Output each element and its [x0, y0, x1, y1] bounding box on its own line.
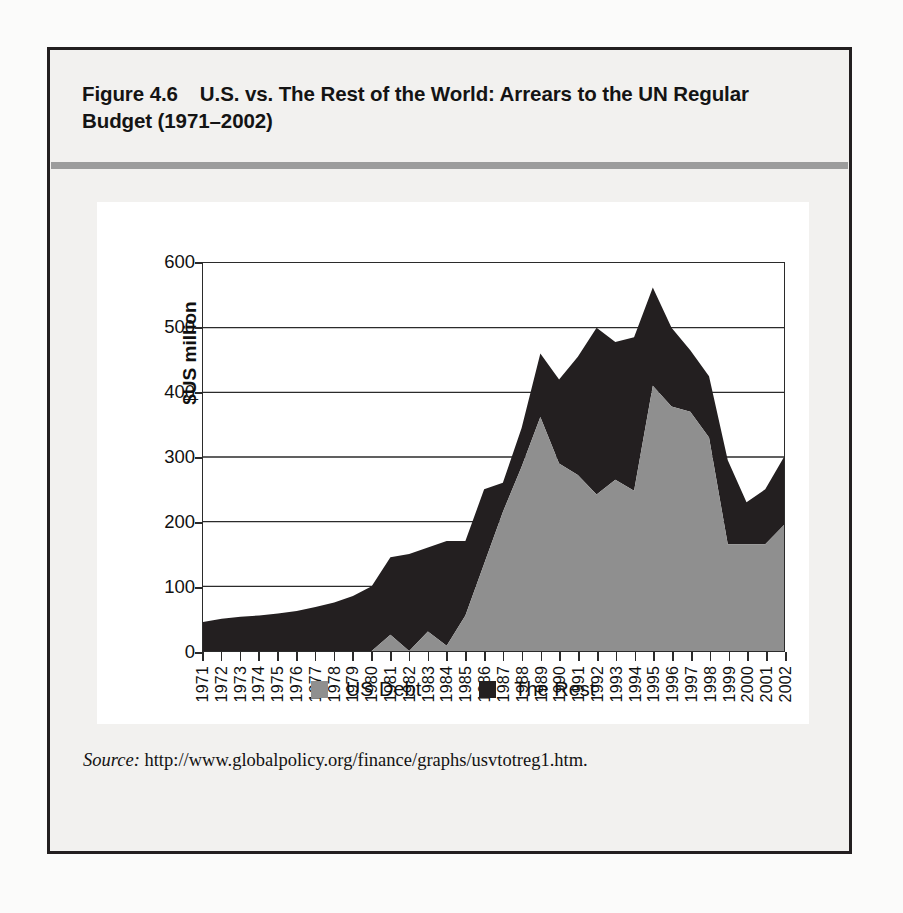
- chart-card: $US million 0100200300400500600 19711972…: [97, 202, 809, 724]
- x-tick-mark: [484, 652, 486, 661]
- x-tick-mark: [202, 652, 204, 661]
- x-tick-mark: [597, 652, 599, 661]
- x-tick-mark: [390, 652, 392, 661]
- x-axis-ticks: 1971197219731974197519761977197819791980…: [202, 652, 785, 752]
- plot-area: [202, 262, 785, 652]
- x-tick-mark: [334, 652, 336, 661]
- legend-item: US Debt: [311, 678, 422, 701]
- y-tick-mark: [195, 327, 202, 329]
- x-tick-mark: [371, 652, 373, 661]
- x-tick-mark: [352, 652, 354, 661]
- source-note: Source: http://www.globalpolicy.org/fina…: [83, 750, 588, 771]
- figure-title-text: U.S. vs. The Rest of the World: Arrears …: [82, 82, 749, 132]
- y-tick-label: 600: [149, 251, 195, 273]
- y-axis-ticks: 0100200300400500600: [143, 202, 195, 724]
- x-tick-mark: [559, 652, 561, 661]
- legend-label: The Rest: [514, 678, 595, 701]
- x-tick-mark: [503, 652, 505, 661]
- y-tick-label: 100: [149, 576, 195, 598]
- x-tick-mark: [221, 652, 223, 661]
- y-tick-mark: [195, 652, 202, 654]
- legend-swatch-icon: [479, 681, 496, 698]
- x-tick-mark: [522, 652, 524, 661]
- y-tick-mark: [195, 262, 202, 264]
- x-tick-mark: [428, 652, 430, 661]
- plot-wrapper: $US million 0100200300400500600 19711972…: [97, 202, 809, 724]
- y-tick-mark: [195, 392, 202, 394]
- x-tick-mark: [541, 652, 543, 661]
- x-tick-mark: [465, 652, 467, 661]
- legend-label: US Debt: [346, 678, 422, 701]
- legend-item: The Rest: [479, 678, 595, 701]
- x-tick-mark: [785, 652, 787, 661]
- y-tick-mark: [195, 457, 202, 459]
- x-tick-mark: [653, 652, 655, 661]
- x-tick-mark: [747, 652, 749, 661]
- stacked-area-chart: [203, 263, 784, 651]
- y-tick-label: 300: [149, 446, 195, 468]
- legend-swatch-icon: [311, 681, 328, 698]
- y-tick-label: 200: [149, 511, 195, 533]
- x-tick-mark: [578, 652, 580, 661]
- x-tick-mark: [240, 652, 242, 661]
- figure-title: Figure 4.6U.S. vs. The Rest of the World…: [82, 80, 802, 134]
- y-tick-label: 500: [149, 316, 195, 338]
- x-tick-mark: [258, 652, 260, 661]
- source-url: http://www.globalpolicy.org/finance/grap…: [144, 750, 587, 770]
- title-divider: [51, 162, 848, 169]
- y-tick-mark: [195, 522, 202, 524]
- source-label: Source:: [83, 750, 140, 770]
- x-tick-mark: [616, 652, 618, 661]
- y-tick-label: 0: [149, 641, 195, 663]
- figure-container: Figure 4.6U.S. vs. The Rest of the World…: [47, 47, 852, 854]
- x-tick-mark: [409, 652, 411, 661]
- x-tick-mark: [710, 652, 712, 661]
- x-tick-mark: [277, 652, 279, 661]
- x-tick-mark: [672, 652, 674, 661]
- x-tick-mark: [766, 652, 768, 661]
- y-tick-mark: [195, 587, 202, 589]
- figure-number: Figure 4.6: [82, 82, 178, 105]
- chart-legend: US DebtThe Rest: [97, 678, 809, 701]
- x-tick-mark: [635, 652, 637, 661]
- y-tick-label: 400: [149, 381, 195, 403]
- x-tick-mark: [691, 652, 693, 661]
- x-tick-mark: [446, 652, 448, 661]
- x-tick-mark: [315, 652, 317, 661]
- x-tick-mark: [296, 652, 298, 661]
- x-tick-mark: [729, 652, 731, 661]
